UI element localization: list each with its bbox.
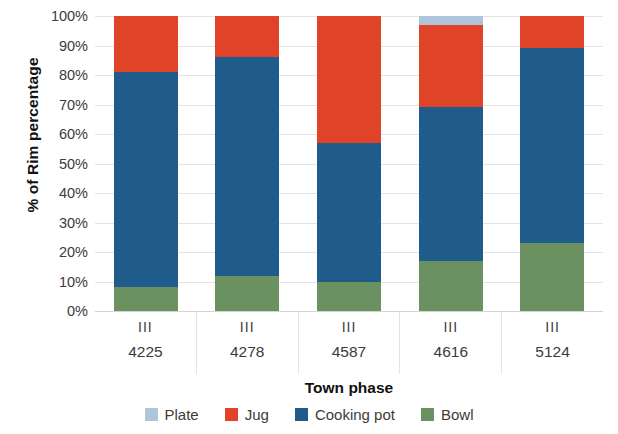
x-axis-category-label: 4225: [128, 343, 162, 361]
bar-segment-cooking-pot[interactable]: [419, 107, 483, 260]
stacked-bar[interactable]: [419, 16, 483, 311]
legend-item-jug[interactable]: Jug: [225, 406, 269, 423]
stacked-bar[interactable]: [520, 16, 584, 311]
y-axis-tick-label: 100%: [26, 8, 88, 24]
bar-slot: [298, 16, 400, 311]
x-axis-category-label: 4278: [230, 343, 264, 361]
bar-segment-jug[interactable]: [419, 25, 483, 108]
bar-slot: [400, 16, 502, 311]
x-axis-tick-labels: III4225III4278III4587III4616III5124: [95, 311, 603, 374]
legend-label: Cooking pot: [315, 406, 395, 423]
legend-label: Bowl: [441, 406, 474, 423]
bar-segment-cooking-pot[interactable]: [317, 143, 381, 282]
bar-segment-bowl[interactable]: [317, 282, 381, 312]
legend-swatch-icon: [225, 408, 238, 421]
bar-segment-bowl[interactable]: [215, 276, 279, 311]
legend-item-plate[interactable]: Plate: [145, 406, 199, 423]
legend-swatch-icon: [295, 408, 308, 421]
bars-layer: [95, 16, 603, 311]
x-axis-group-label: III: [240, 319, 255, 335]
legend-label: Jug: [245, 406, 269, 423]
x-axis-cell: III5124: [502, 312, 603, 374]
y-axis-tick-label: 80%: [26, 67, 88, 83]
y-axis-tick-label: 30%: [26, 215, 88, 231]
bar-segment-cooking-pot[interactable]: [520, 48, 584, 243]
x-axis-group-label: III: [443, 319, 458, 335]
bar-segment-jug[interactable]: [215, 16, 279, 57]
bar-slot: [501, 16, 603, 311]
bar-slot: [197, 16, 299, 311]
y-axis-tick-label: 20%: [26, 244, 88, 260]
stacked-bar[interactable]: [114, 16, 178, 311]
bar-slot: [95, 16, 197, 311]
bar-segment-cooking-pot[interactable]: [114, 72, 178, 287]
bar-segment-jug[interactable]: [520, 16, 584, 48]
stacked-bar[interactable]: [215, 16, 279, 311]
x-axis-cell: III4278: [197, 312, 299, 374]
y-axis-tick-label: 90%: [26, 38, 88, 54]
y-axis-tick-label: 0%: [26, 303, 88, 319]
y-axis-tick-labels: 100%90%80%70%60%50%40%30%20%10%0%: [26, 16, 88, 311]
bar-segment-bowl[interactable]: [520, 243, 584, 311]
x-axis-title: Town phase: [95, 379, 603, 397]
y-axis-tick-label: 40%: [26, 185, 88, 201]
x-axis-category-label: 4587: [332, 343, 366, 361]
bar-segment-plate[interactable]: [419, 16, 483, 25]
bar-segment-jug[interactable]: [114, 16, 178, 72]
x-axis-group-label: III: [545, 319, 560, 335]
stacked-bar[interactable]: [317, 16, 381, 311]
y-axis-tick-label: 60%: [26, 126, 88, 142]
plot-area: [95, 16, 603, 311]
x-axis-category-label: 4616: [434, 343, 468, 361]
x-axis-cell: III4225: [95, 312, 197, 374]
bar-segment-cooking-pot[interactable]: [215, 57, 279, 275]
bar-segment-bowl[interactable]: [419, 261, 483, 311]
y-axis-tick-label: 10%: [26, 274, 88, 290]
legend-item-bowl[interactable]: Bowl: [421, 406, 474, 423]
x-axis-cell: III4587: [299, 312, 401, 374]
legend-swatch-icon: [145, 408, 158, 421]
legend-item-cooking-pot[interactable]: Cooking pot: [295, 406, 395, 423]
legend: PlateJugCooking potBowl: [0, 406, 618, 423]
stacked-bar-chart: % of Rim percentage 100%90%80%70%60%50%4…: [0, 0, 618, 434]
y-axis-tick-label: 50%: [26, 156, 88, 172]
y-axis-tick-label: 70%: [26, 97, 88, 113]
legend-label: Plate: [165, 406, 199, 423]
x-axis-cell: III4616: [400, 312, 502, 374]
x-axis-category-label: 5124: [535, 343, 569, 361]
x-axis-group-label: III: [342, 319, 357, 335]
bar-segment-jug[interactable]: [317, 16, 381, 143]
bar-segment-bowl[interactable]: [114, 287, 178, 311]
legend-swatch-icon: [421, 408, 434, 421]
x-axis-group-label: III: [138, 319, 153, 335]
